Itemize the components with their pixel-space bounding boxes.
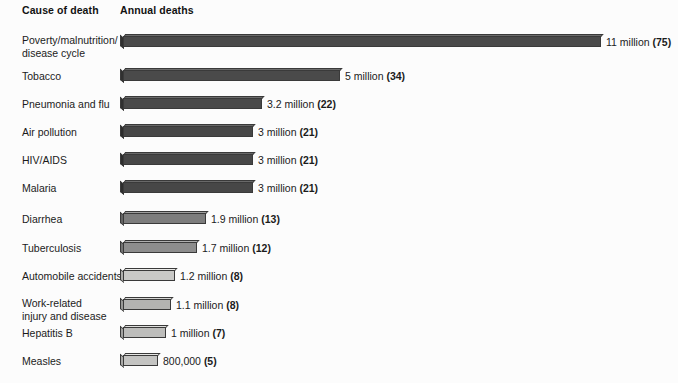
bar-value-label: 11 million (75) [606, 36, 671, 48]
category-label: Work-related injury and disease [22, 297, 107, 322]
bar-front-face [123, 270, 175, 281]
bar-chart-plot: Poverty/malnutrition/ disease cycle11 mi… [0, 0, 678, 383]
bar-value-label: 3 million (21) [258, 126, 318, 138]
bar-front-face [123, 126, 253, 137]
category-label: Poverty/malnutrition/ disease cycle [22, 34, 118, 59]
bar-value-label: 1 million (7) [171, 327, 225, 339]
category-label: Tuberculosis [22, 242, 81, 255]
bar [120, 268, 176, 281]
category-label: Measles [22, 355, 61, 368]
bar-value-label: 3 million (21) [258, 154, 318, 166]
bar-front-face [123, 36, 601, 47]
bar-value-label: 800,000 (5) [163, 355, 217, 367]
bar [120, 211, 207, 224]
bar-value-label: 1.1 million (8) [176, 299, 239, 311]
category-label: Tobacco [22, 70, 61, 83]
bar-front-face [123, 182, 253, 193]
bar [120, 96, 263, 109]
bar [120, 325, 167, 338]
bar-value-label: 1.7 million (12) [202, 242, 271, 254]
category-label: Hepatitis B [22, 327, 73, 340]
bar-front-face [123, 327, 166, 338]
category-label: Automobile accidents [22, 270, 122, 283]
bar-front-face [123, 154, 253, 165]
bar [120, 353, 159, 366]
bar-value-label: 1.2 million (8) [180, 270, 243, 282]
category-label: Pneumonia and flu [22, 98, 110, 111]
bar-value-label: 3.2 million (22) [267, 98, 336, 110]
category-label: Diarrhea [22, 213, 62, 226]
bar [120, 297, 172, 310]
bar-front-face [123, 70, 340, 81]
bar-front-face [123, 355, 158, 366]
bar [120, 124, 254, 137]
category-label: HIV/AIDS [22, 154, 67, 167]
bar-value-label: 1.9 million (13) [211, 213, 280, 225]
bar-front-face [123, 299, 171, 310]
bar [120, 34, 602, 47]
bar [120, 152, 254, 165]
bar-front-face [123, 242, 197, 253]
bar-value-label: 5 million (34) [345, 70, 405, 82]
chart-page: Cause of death Annual deaths Poverty/mal… [0, 0, 678, 383]
bar-value-label: 3 million (21) [258, 182, 318, 194]
bar-front-face [123, 98, 262, 109]
category-label: Malaria [22, 182, 56, 195]
category-label: Air pollution [22, 126, 77, 139]
bar [120, 240, 198, 253]
bar [120, 180, 254, 193]
bar [120, 68, 341, 81]
bar-front-face [123, 213, 206, 224]
